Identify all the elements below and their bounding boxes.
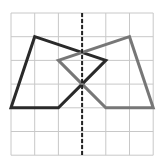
- reflection-diagram: [0, 0, 165, 159]
